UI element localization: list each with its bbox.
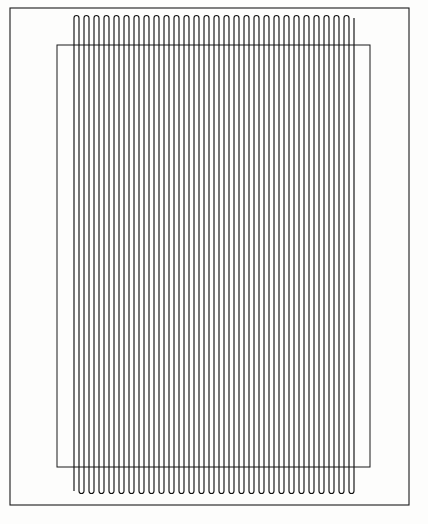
figure-canvas xyxy=(0,0,428,524)
serpentine-conductor-trace xyxy=(74,16,354,494)
technical-figure xyxy=(0,0,428,524)
